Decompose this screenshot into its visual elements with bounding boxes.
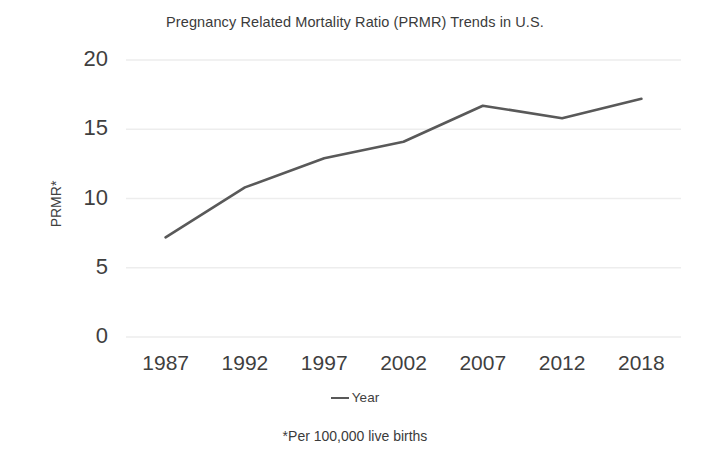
x-axis-tick-label: 2007 (438, 352, 528, 373)
y-axis-tick-label: 10 (48, 187, 108, 209)
y-axis-tick-label: 15 (48, 117, 108, 139)
chart-legend: Year (0, 390, 710, 405)
chart-footnote: *Per 100,000 live births (0, 428, 710, 444)
x-axis-tick-label: 2002 (359, 352, 449, 373)
x-axis-tick-label: 1987 (121, 352, 211, 373)
data-series-line (166, 99, 642, 238)
x-axis-tick-label: 2012 (517, 352, 607, 373)
legend-label-year: Year (352, 390, 379, 405)
chart-container: Pregnancy Related Mortality Ratio (PRMR)… (0, 0, 710, 468)
y-axis-tick-label: 0 (48, 325, 108, 347)
x-axis-tick-label: 1992 (200, 352, 290, 373)
y-axis-tick-label: 20 (48, 48, 108, 70)
x-axis-tick-label: 2018 (596, 352, 686, 373)
legend-line-swatch-icon (331, 397, 349, 399)
x-axis-tick-label: 1997 (279, 352, 369, 373)
gridlines (126, 60, 681, 337)
y-axis-tick-label: 5 (48, 256, 108, 278)
